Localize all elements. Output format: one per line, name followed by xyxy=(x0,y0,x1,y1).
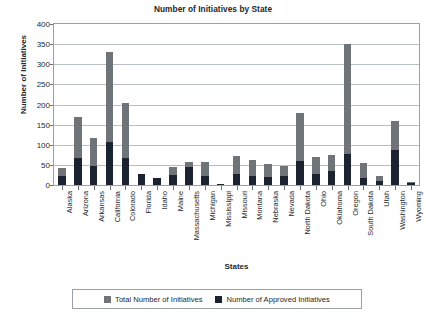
x-tick-label: Washington xyxy=(398,191,407,230)
bar-approved xyxy=(312,174,320,185)
x-tick-label: California xyxy=(113,191,122,222)
y-tick-label: 100 xyxy=(2,140,50,149)
x-axis-tick-labels: AlaskaArizonaArkansasCaliforniaColoradoF… xyxy=(54,191,419,257)
bar-group xyxy=(328,24,336,185)
x-tick-label: North Dakota xyxy=(303,191,312,235)
bar-group xyxy=(280,24,288,185)
bar-approved xyxy=(391,150,399,185)
x-tick-label: Arkansas xyxy=(97,191,106,222)
y-tick-label: 300 xyxy=(2,60,50,69)
x-tick-mark xyxy=(62,186,63,190)
legend-swatch-total-icon xyxy=(104,296,111,303)
bar-approved xyxy=(122,158,130,185)
x-tick-label: South Dakota xyxy=(366,191,375,236)
bar-approved xyxy=(328,171,336,185)
bar-group xyxy=(249,24,257,185)
bar-approved xyxy=(153,178,161,185)
x-tick-label: Montana xyxy=(255,191,264,220)
x-tick-label: Nevada xyxy=(287,191,296,216)
x-tick-label: Oklahoma xyxy=(335,191,344,225)
y-tick-label: 50 xyxy=(2,160,50,169)
x-tick-label: Missouri xyxy=(240,191,249,219)
bar-approved xyxy=(264,177,272,185)
bar-group xyxy=(122,24,130,185)
bar-approved xyxy=(280,176,288,185)
y-axis-tick-labels: 050100150200250300350400 xyxy=(0,23,50,186)
bar-group xyxy=(169,24,177,185)
bar-approved xyxy=(360,178,368,185)
bar-approved xyxy=(217,184,225,185)
x-tick-label: Massachusetts xyxy=(192,191,201,240)
bar-approved xyxy=(201,176,209,185)
x-tick-mark xyxy=(141,186,142,190)
x-tick-label: Mississippi xyxy=(224,191,233,227)
initiatives-by-state-chart: Number of Initiatives by State Number of… xyxy=(0,0,426,320)
bar-approved xyxy=(344,154,352,185)
bar-group xyxy=(74,24,82,185)
legend-label-approved: Number of Approved Initiatives xyxy=(226,295,329,304)
y-tick-label: 250 xyxy=(2,80,50,89)
x-tick-mark xyxy=(300,186,301,190)
bar-group xyxy=(201,24,209,185)
bar-group xyxy=(153,24,161,185)
x-tick-mark xyxy=(363,186,364,190)
x-tick-label: Utah xyxy=(382,191,391,207)
chart-title: Number of Initiatives by State xyxy=(0,4,426,14)
bar-approved xyxy=(249,176,257,185)
x-tick-mark xyxy=(332,186,333,190)
x-tick-mark xyxy=(221,186,222,190)
bars-layer xyxy=(54,24,419,185)
chart-legend: Total Number of Initiatives Number of Ap… xyxy=(72,289,362,309)
x-tick-mark xyxy=(173,186,174,190)
bar-approved xyxy=(169,175,177,185)
x-tick-mark xyxy=(78,186,79,190)
y-tick-label: 0 xyxy=(2,181,50,190)
bar-approved xyxy=(74,158,82,185)
x-axis-title: States xyxy=(53,262,420,271)
legend-item-approved: Number of Approved Initiatives xyxy=(215,295,329,304)
bar-group xyxy=(233,24,241,185)
bar-approved xyxy=(90,166,98,185)
x-tick-mark xyxy=(94,186,95,190)
bar-group xyxy=(296,24,304,185)
x-tick-mark xyxy=(237,186,238,190)
y-tick-label: 150 xyxy=(2,120,50,129)
x-tick-mark xyxy=(125,186,126,190)
x-tick-mark xyxy=(316,186,317,190)
x-tick-label: Ohio xyxy=(319,191,328,207)
x-tick-mark xyxy=(110,186,111,190)
legend-swatch-approved-icon xyxy=(215,296,222,303)
bar-group xyxy=(58,24,66,185)
y-tick-label: 350 xyxy=(2,40,50,49)
x-tick-mark xyxy=(157,186,158,190)
legend-label-total: Total Number of Initiatives xyxy=(115,295,202,304)
bar-group xyxy=(376,24,384,185)
x-tick-mark xyxy=(268,186,269,190)
x-tick-mark xyxy=(348,186,349,190)
x-tick-label: Alaska xyxy=(65,191,74,213)
bar-approved xyxy=(185,167,193,185)
bar-group xyxy=(217,24,225,185)
bar-approved xyxy=(138,174,146,185)
x-tick-label: Colorado xyxy=(128,191,137,221)
bar-approved xyxy=(58,176,66,185)
bar-group xyxy=(407,24,415,185)
bar-approved xyxy=(407,183,415,185)
x-tick-mark xyxy=(189,186,190,190)
x-tick-label: Maine xyxy=(176,191,185,211)
x-tick-mark xyxy=(252,186,253,190)
x-tick-label: Michigan xyxy=(208,191,217,221)
x-tick-label: Florida xyxy=(144,191,153,214)
bar-group xyxy=(185,24,193,185)
x-tick-mark xyxy=(284,186,285,190)
bar-group xyxy=(138,24,146,185)
x-tick-label: Wyoming xyxy=(414,191,423,222)
bar-group xyxy=(106,24,114,185)
bar-group xyxy=(90,24,98,185)
bar-approved xyxy=(233,174,241,185)
bar-group xyxy=(264,24,272,185)
bar-group xyxy=(344,24,352,185)
x-tick-mark xyxy=(379,186,380,190)
legend-item-total: Total Number of Initiatives xyxy=(104,295,202,304)
x-tick-mark xyxy=(411,186,412,190)
